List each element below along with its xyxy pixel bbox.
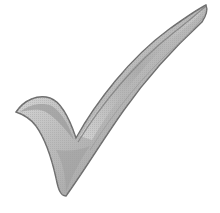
checkmark-icon: [0, 0, 220, 213]
checkmark-image: Grey 3D checkmark: [0, 0, 220, 213]
